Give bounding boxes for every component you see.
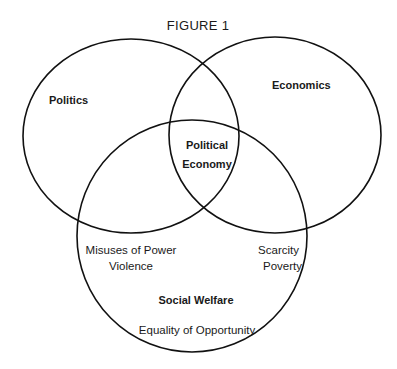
poverty-label: Poverty [263,260,302,272]
figure-title: FIGURE 1 [167,18,229,33]
politics-circle [23,39,239,233]
misuses-of-power-label: Misuses of Power [86,244,177,256]
politics-label: Politics [49,94,88,106]
economics-circle [169,37,381,233]
political-economy-label-line2: Economy [182,158,232,170]
social-welfare-label: Social Welfare [159,294,234,306]
equality-of-opportunity-label: Equality of Opportunity [139,324,256,336]
venn-diagram: FIGURE 1 Politics Economics Political Ec… [0,0,397,369]
social-welfare-circle [77,120,307,352]
economics-label: Economics [272,79,331,91]
political-economy-label-line1: Political [186,139,228,151]
scarcity-label: Scarcity [258,244,299,256]
violence-label: Violence [109,260,153,272]
